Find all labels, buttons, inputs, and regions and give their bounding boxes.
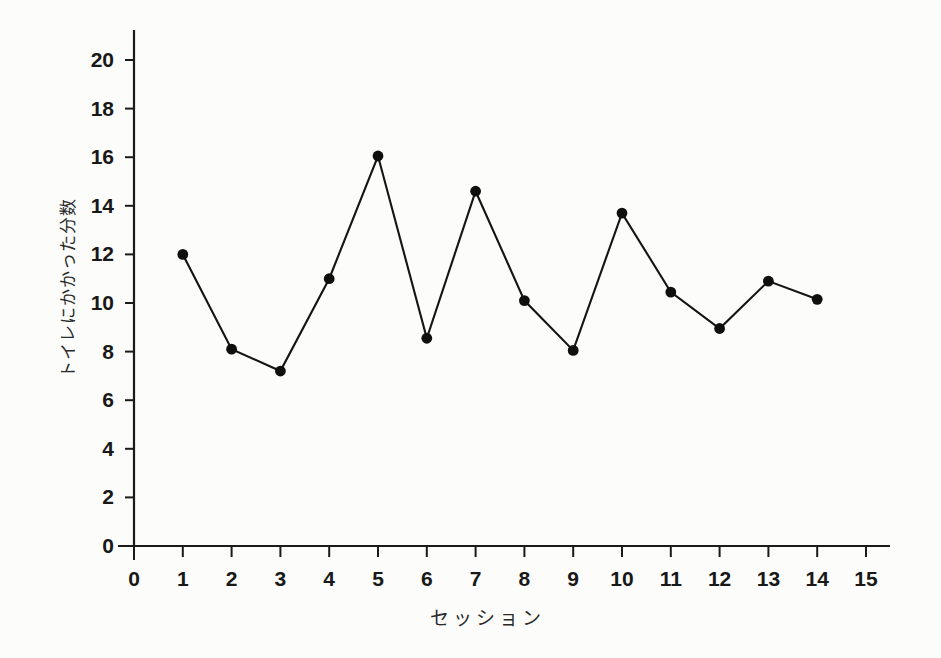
y-tick-label: 20 [91, 48, 114, 71]
x-tick-label: 2 [226, 567, 238, 590]
data-point-marker: 8: 10.1 [519, 295, 530, 306]
data-point-marker: 9: 8.05 [568, 345, 579, 356]
y-tick-label: 0 [102, 534, 114, 557]
y-axis-title: トイレにかかった分数 [58, 198, 78, 378]
x-tick-label: 7 [470, 567, 482, 590]
y-tick-label: 2 [102, 485, 114, 508]
y-tick-label: 18 [91, 97, 115, 120]
x-tick-label: 13 [757, 567, 780, 590]
x-tick-label: 6 [421, 567, 433, 590]
data-point-marker: 3: 7.2 [275, 366, 286, 377]
x-tick-label: 4 [323, 567, 335, 590]
y-tick-label: 4 [102, 437, 114, 460]
x-tick-label: 1 [177, 567, 189, 590]
x-tick-label: 5 [372, 567, 384, 590]
chart-page: 02468101214161820 0123456789101112131415… [0, 0, 941, 658]
data-point-marker: 13: 10.9 [763, 276, 774, 287]
y-tick-label: 16 [91, 145, 114, 168]
data-point-marker: 12: 8.95 [714, 323, 725, 334]
x-axis-title: セッション [430, 607, 545, 629]
line-chart: 02468101214161820 0123456789101112131415… [0, 0, 941, 658]
x-tick-label: 12 [708, 567, 731, 590]
data-point-marker: 4: 11 [324, 273, 335, 284]
data-point-marker: 14: 10.15 [812, 294, 823, 305]
data-point-marker: 2: 8.1 [226, 344, 237, 355]
data-point-marker: 11: 10.45 [665, 287, 676, 298]
x-tick-label: 11 [660, 567, 683, 590]
data-point-marker: 6: 8.55 [421, 333, 432, 344]
data-point-marker: 7: 14.6 [470, 186, 481, 197]
data-point-marker: 5: 16.05 [373, 151, 384, 162]
x-tick-label: 10 [610, 567, 633, 590]
y-tick-label: 14 [91, 194, 115, 217]
x-tick-label: 8 [519, 567, 531, 590]
y-tick-label: 6 [102, 388, 114, 411]
x-tick-label: 14 [806, 567, 830, 590]
x-tick-label: 0 [128, 567, 140, 590]
data-point-marker: 10: 13.7 [617, 208, 628, 219]
chart-background [0, 0, 941, 658]
data-point-marker: 1: 12 [177, 249, 188, 260]
x-tick-label: 15 [854, 567, 878, 590]
x-tick-label: 9 [567, 567, 579, 590]
y-tick-label: 8 [102, 340, 114, 363]
y-tick-label: 10 [91, 291, 114, 314]
x-tick-label: 3 [275, 567, 287, 590]
y-tick-label: 12 [91, 242, 114, 265]
